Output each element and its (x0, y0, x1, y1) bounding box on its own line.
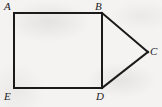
vertex-label-A: A (4, 1, 11, 12)
edge-CD (102, 52, 148, 88)
vertex-label-E: E (4, 91, 11, 102)
vertex-label-C: C (150, 46, 157, 57)
vertex-label-B: B (95, 1, 102, 12)
figure-canvas (0, 0, 162, 107)
edge-BC (102, 13, 148, 52)
geometry-figure: A B C D E (0, 0, 162, 107)
vertex-label-D: D (96, 91, 104, 102)
